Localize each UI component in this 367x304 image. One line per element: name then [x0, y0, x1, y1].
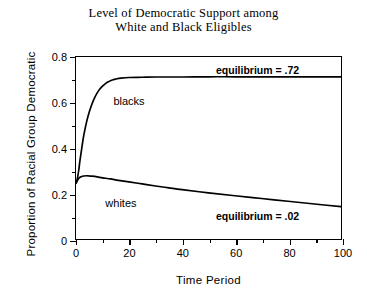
chart-title: Level of Democratic Support among White … — [0, 6, 367, 34]
x-tick-minor — [263, 239, 264, 243]
series-label-whites: whites — [105, 197, 136, 209]
x-tick-label: 100 — [334, 247, 352, 259]
x-tick-minor — [316, 239, 317, 243]
x-tick-label: 40 — [177, 247, 189, 259]
chart-figure: Level of Democratic Support among White … — [0, 0, 367, 304]
y-tick-label: 0 — [61, 235, 67, 247]
x-tick-major — [290, 239, 291, 245]
x-tick-major — [236, 239, 237, 245]
series-curves — [76, 57, 341, 239]
x-axis-title: Time Period — [75, 274, 342, 286]
y-tick-label: 0.6 — [52, 97, 67, 109]
annotation-eq-blacks: equilibrium = .72 — [216, 64, 299, 76]
series-label-blacks: blacks — [113, 95, 144, 107]
x-tick-label: 60 — [230, 247, 242, 259]
x-tick-label: 20 — [123, 247, 135, 259]
x-tick-minor — [103, 239, 104, 243]
chart-title-line-2: White and Black Eligibles — [0, 20, 367, 34]
series-line-blacks — [76, 77, 341, 183]
x-tick-major — [129, 239, 130, 245]
x-tick-major — [183, 239, 184, 245]
y-tick-label: 0.2 — [52, 189, 67, 201]
y-axis-title: Proportion of Racial Group Democratic — [25, 44, 37, 264]
x-tick-minor — [210, 239, 211, 243]
y-tick-label: 0.8 — [52, 51, 67, 63]
x-tick-major — [343, 239, 344, 245]
x-tick-minor — [156, 239, 157, 243]
annotation-eq-whites: equilibrium = .02 — [216, 210, 299, 222]
x-tick-label: 0 — [73, 247, 79, 259]
x-tick-label: 80 — [283, 247, 295, 259]
chart-title-line-1: Level of Democratic Support among — [0, 6, 367, 20]
x-tick-major — [76, 239, 77, 245]
y-tick-label: 0.4 — [52, 143, 67, 155]
plot-area: 00.20.40.60.8 020406080100 blackswhitese… — [75, 56, 342, 240]
